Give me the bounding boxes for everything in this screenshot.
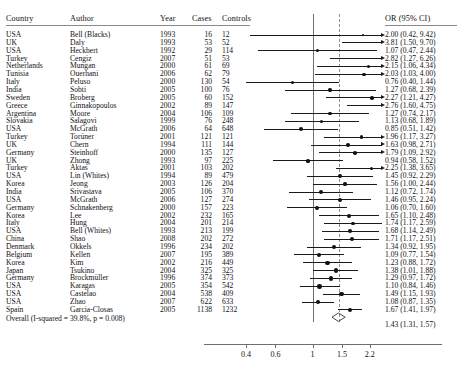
ci-point-estimate	[316, 49, 319, 52]
axis-tick	[342, 344, 343, 348]
axis-tick-label: 1.5	[337, 350, 347, 359]
ci-point-estimate	[350, 237, 354, 241]
ci-point-estimate	[320, 120, 324, 124]
ci-arrow-right	[381, 64, 385, 68]
column-header-country: Country	[6, 14, 34, 23]
ci-arrow-right	[381, 135, 385, 139]
axis-tick-label: 2.2	[365, 350, 375, 359]
ci-point-estimate	[343, 182, 347, 186]
ci-line	[347, 105, 382, 106]
ci-point-estimate	[370, 167, 374, 171]
ci-point-estimate	[362, 73, 365, 76]
header-rule-left	[6, 25, 250, 26]
null-effect-line	[313, 14, 314, 322]
ci-point-estimate	[306, 159, 310, 163]
x-axis: 0.40.611.52.2	[200, 344, 450, 372]
ci-point-estimate	[370, 96, 373, 99]
ci-arrow-right	[381, 150, 385, 154]
ci-line	[317, 66, 382, 67]
axis-tick	[246, 344, 247, 348]
column-header-or: OR (95% CI)	[385, 14, 430, 23]
ci-point-estimate	[351, 222, 355, 226]
ci-arrow-right	[381, 72, 385, 76]
ci-arrow-right	[381, 33, 385, 37]
column-header-cases: Cases	[192, 14, 212, 23]
header-rule-right	[385, 25, 457, 26]
cell-author: Garcia-Closas	[70, 306, 113, 314]
ci-line	[324, 137, 382, 138]
ci-point-estimate	[319, 190, 323, 194]
ci-point-estimate	[348, 308, 353, 313]
ci-point-estimate	[329, 276, 333, 280]
summary-diamond	[330, 312, 347, 322]
ci-point-estimate	[299, 127, 303, 131]
axis-tick	[370, 344, 371, 348]
ci-point-estimate	[317, 253, 321, 257]
ci-point-estimate	[347, 214, 351, 218]
axis-tick-label: 1	[311, 350, 315, 359]
ci-line	[319, 152, 382, 153]
ci-arrow-right	[381, 142, 385, 146]
axis-tick-label: 0.6	[270, 350, 280, 359]
ci-line	[315, 74, 382, 75]
ci-point-estimate	[338, 198, 342, 202]
plot-area	[232, 14, 382, 354]
overall-or-ci: 1.43 (1.31, 1.57)	[385, 321, 436, 329]
ci-point-estimate	[353, 151, 357, 155]
ci-arrow-right	[381, 56, 385, 60]
cell-cases: 1138	[190, 306, 212, 314]
axis-line	[204, 344, 442, 345]
ci-point-estimate	[362, 34, 365, 37]
column-header-year: Year	[160, 14, 176, 23]
axis-tick	[275, 344, 276, 348]
ci-arrow-right	[381, 95, 385, 99]
axis-tick	[313, 344, 314, 348]
ci-point-estimate	[348, 229, 352, 233]
cell-country: Spain	[6, 306, 23, 314]
ci-point-estimate	[332, 245, 336, 249]
forest-plot: Country Author Year Cases Controls OR (9…	[0, 0, 462, 374]
ci-arrow-right	[381, 40, 385, 44]
axis-tick-label: 0.4	[241, 350, 251, 359]
ci-arrow-right	[381, 166, 385, 170]
column-header-author: Author	[70, 14, 94, 23]
ci-point-estimate	[339, 292, 344, 297]
ci-line	[342, 42, 382, 43]
ci-point-estimate	[328, 88, 331, 91]
ci-point-estimate	[334, 268, 338, 272]
ci-point-estimate	[291, 81, 294, 84]
ci-point-estimate	[325, 261, 329, 265]
ci-point-estimate	[367, 65, 370, 68]
ci-point-estimate	[328, 112, 331, 115]
ci-line	[336, 168, 382, 169]
ci-arrow-right	[381, 103, 385, 107]
overall-label: Overall (I-squared = 39.8%, p = 0.008)	[6, 314, 125, 323]
ci-point-estimate	[346, 143, 350, 147]
ci-line	[330, 58, 382, 59]
ci-point-estimate	[315, 206, 319, 210]
ci-point-estimate	[316, 300, 321, 305]
ci-point-estimate	[317, 284, 322, 289]
ci-point-estimate	[360, 135, 364, 139]
cell-year: 2005	[160, 306, 175, 314]
cell-or-ci: 1.67 (1.41, 1.97)	[385, 306, 436, 314]
